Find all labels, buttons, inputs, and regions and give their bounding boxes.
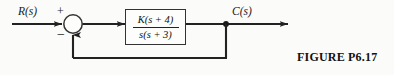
figure-caption: FIGURE P6.17 bbox=[297, 50, 377, 65]
transfer-function-denominator: s(s + 3) bbox=[137, 28, 174, 40]
figure-container: R(s) C(s) + − K(s + 4) s(s + 3) FIGURE P… bbox=[0, 0, 394, 75]
output-signal-label: C(s) bbox=[232, 6, 252, 18]
summing-junction bbox=[64, 15, 82, 33]
summing-junction-plus-sign: + bbox=[57, 5, 64, 17]
input-signal-label: R(s) bbox=[18, 6, 37, 18]
summing-junction-minus-sign: − bbox=[57, 28, 65, 42]
transfer-function-numerator: K(s + 4) bbox=[136, 14, 176, 26]
transfer-function-fraction: K(s + 4) s(s + 3) bbox=[133, 14, 179, 39]
forward-transfer-function-block: K(s + 4) s(s + 3) bbox=[125, 9, 186, 45]
